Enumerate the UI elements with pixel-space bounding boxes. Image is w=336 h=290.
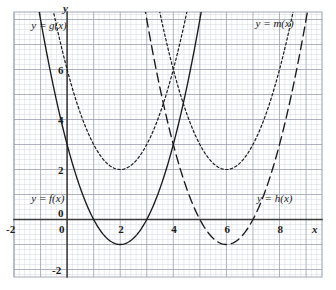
y-axis-label: y (63, 3, 68, 14)
x-tick-label-2: 2 (118, 224, 124, 235)
y-tick-label-4: 4 (58, 115, 64, 126)
y-tick-label-0: 0 (58, 208, 64, 219)
x-tick-label-4: 4 (171, 224, 177, 235)
label-m: y = m(x) (256, 18, 294, 29)
y-tick-label-2: 2 (58, 165, 64, 176)
x-tick-label-0: 0 (59, 224, 65, 235)
label-f: y = f(x) (31, 193, 64, 204)
x-tick-label-6: 6 (224, 224, 230, 235)
x-axis-label: x (312, 224, 318, 235)
x-tick-label-neg2: -2 (6, 224, 15, 235)
y-tick-label-neg2: -2 (52, 265, 61, 276)
y-tick-label-6: 6 (58, 65, 64, 76)
parabola-graph-figure: -2024680642-2xyy = g(x)y = m(x)y = f(x)y… (0, 0, 336, 290)
label-g: y = g(x) (31, 20, 67, 31)
x-tick-label-8: 8 (278, 224, 284, 235)
label-h: y = h(x) (257, 193, 293, 204)
chart-svg (0, 0, 336, 290)
